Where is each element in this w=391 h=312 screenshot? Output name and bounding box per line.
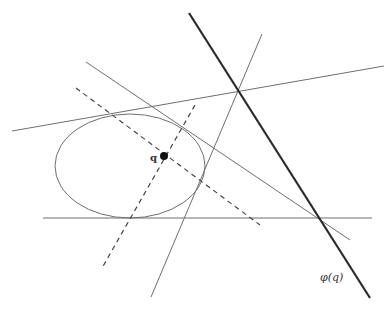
ellipse-conic: [55, 114, 205, 218]
polar-diagram: q φ(q): [0, 0, 391, 312]
label-q: q: [150, 152, 157, 163]
tangent-line-steep: [151, 34, 262, 297]
point-q: [160, 152, 168, 160]
polar-line-phi-q: [189, 13, 370, 298]
label-phi-q: φ(q): [320, 271, 343, 284]
tangent-line-upper: [12, 66, 384, 131]
dashed-line-2: [102, 105, 195, 268]
dashed-line-1: [76, 88, 260, 225]
tangent-line-diagonal: [86, 62, 350, 240]
